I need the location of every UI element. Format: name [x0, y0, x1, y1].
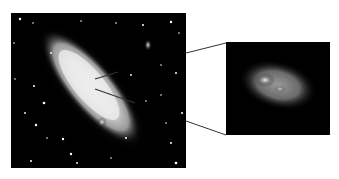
nucleus-bright-spot — [255, 73, 275, 87]
nucleus-illustration — [226, 42, 330, 135]
connector-line-bottom — [186, 121, 226, 135]
satellite-galaxy — [144, 39, 152, 51]
nucleus-glow — [233, 51, 323, 118]
galaxy-photo — [11, 13, 186, 168]
galaxy-illustration — [11, 13, 186, 168]
nucleus-dim-spot — [274, 85, 286, 93]
connector-line-top — [186, 43, 226, 53]
nucleus-closeup-photo — [226, 42, 330, 135]
satellite-blob — [97, 117, 107, 127]
